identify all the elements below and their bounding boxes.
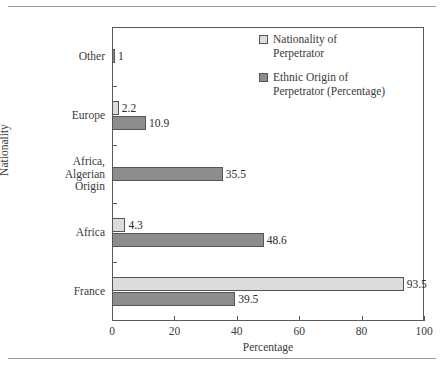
x-axis-title: Percentage [112,341,424,353]
category-label: Europe [0,109,105,122]
category-label: Africa, Algerian Origin [0,155,105,193]
x-axis-tick-label: 20 [169,325,181,337]
x-axis-tick-label: 80 [356,325,368,337]
category-label: Other [0,50,105,63]
page-rule-top [8,6,436,7]
x-axis-tick-label: 100 [415,325,432,337]
x-axis-tick-label: 40 [231,325,243,337]
x-axis-tick-label: 60 [293,325,305,337]
category-label: Africa [0,226,105,239]
x-axis-tick [424,316,425,321]
page-rule-bottom [8,358,436,359]
category-label: France [0,285,105,298]
x-axis-tick-labels: 020406080100 [112,27,424,321]
x-axis-tick-label: 0 [109,325,115,337]
